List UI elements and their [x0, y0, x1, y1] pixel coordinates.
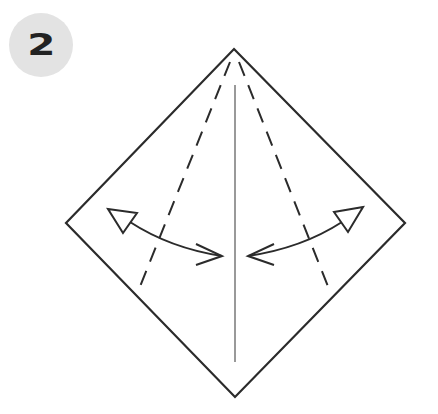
origami-fold-diagram: [0, 0, 438, 414]
right-fold-unfold-arrow-icon: [248, 207, 363, 265]
left-valley-fold-line: [137, 62, 230, 294]
left-fold-unfold-arrow-icon: [108, 209, 222, 265]
right-valley-fold-line: [239, 62, 331, 294]
